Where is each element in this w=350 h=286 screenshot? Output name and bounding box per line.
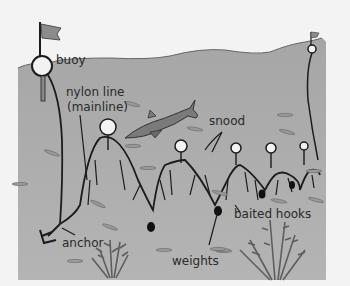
- label-weights: weights: [172, 254, 219, 268]
- label-baited-hooks: baited hooks: [234, 207, 311, 221]
- label-anchor: anchor: [62, 236, 104, 250]
- label-mainline-line1: nylon line: [66, 85, 124, 99]
- label-mainline-line2: (mainline): [67, 100, 128, 114]
- flag-icon: [41, 24, 61, 40]
- label-snood: snood: [209, 114, 245, 128]
- longline-fishing-diagram: buoy nylon line (mainline) snood baited …: [0, 0, 350, 286]
- label-buoy: buoy: [56, 53, 86, 67]
- flag-icon: [311, 32, 319, 38]
- buoy-float: [32, 56, 52, 76]
